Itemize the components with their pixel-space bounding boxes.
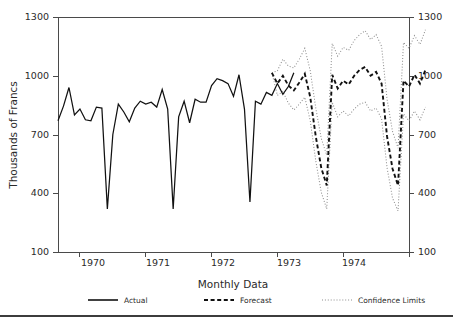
x-tick-label-1973: 1973 — [277, 257, 301, 268]
chart-legend: Actual Forecast Confidence Limits — [88, 296, 425, 305]
y-tick-label-1000: 1000 — [25, 70, 49, 81]
x-tick-label-1970: 1970 — [81, 257, 105, 268]
y-tick-label-100: 100 — [31, 246, 49, 257]
series-layer — [58, 30, 425, 211]
x-axis-title: Monthly Data — [198, 278, 268, 290]
y-axis-title: Thousands of Francs — [7, 81, 19, 190]
y-tick-label-1300: 1300 — [25, 11, 49, 22]
plot-frame — [58, 17, 409, 252]
line-chart: 1300 1000 700 400 100 1300 1000 700 400 … — [0, 0, 453, 320]
series-actual — [58, 73, 294, 209]
x-tick-label-1972: 1972 — [211, 257, 235, 268]
series-confidence-lower — [272, 73, 426, 211]
x-tick-label-1974: 1974 — [342, 257, 366, 268]
legend-item-confidence-limits[interactable]: Confidence Limits — [322, 296, 425, 305]
legend-item-actual[interactable]: Actual — [88, 296, 148, 305]
y-tick-label-700: 700 — [31, 129, 49, 140]
chart-container: 1300 1000 700 400 100 1300 1000 700 400 … — [0, 0, 453, 320]
series-forecast — [272, 67, 426, 185]
legend-label-confidence: Confidence Limits — [358, 296, 425, 305]
x-axis-tick-labels: 1970 1971 1972 1973 1974 — [81, 257, 366, 268]
y-tick-label-right-1300: 1300 — [418, 11, 442, 22]
y-axis-ticks-left: 1300 1000 700 400 100 — [25, 11, 58, 257]
x-tick-label-1971: 1971 — [146, 257, 170, 268]
y-tick-label-right-400: 400 — [418, 187, 436, 198]
y-tick-label-400: 400 — [31, 187, 49, 198]
y-tick-label-right-100: 100 — [418, 246, 436, 257]
legend-item-forecast[interactable]: Forecast — [204, 296, 272, 305]
legend-label-actual: Actual — [124, 296, 148, 305]
y-axis-ticks-right: 1300 1000 700 400 100 — [409, 11, 442, 257]
y-tick-label-right-700: 700 — [418, 129, 436, 140]
legend-label-forecast: Forecast — [240, 296, 272, 305]
